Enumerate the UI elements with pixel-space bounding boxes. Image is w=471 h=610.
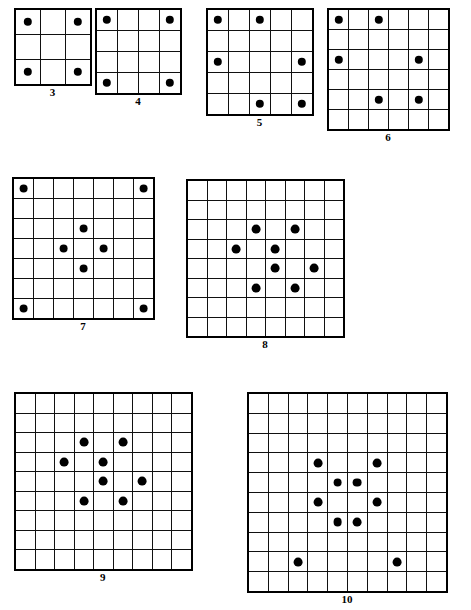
grid-cell[interactable] <box>94 492 114 512</box>
grid-cell[interactable] <box>308 533 328 553</box>
grid-cell[interactable] <box>250 73 271 94</box>
grid-cell[interactable] <box>54 299 74 319</box>
grid-cell[interactable] <box>369 70 389 90</box>
grid-cell[interactable] <box>114 239 134 259</box>
grid-cell[interactable] <box>153 472 173 492</box>
grid-cell[interactable] <box>36 394 56 414</box>
grid-cell[interactable] <box>94 279 114 299</box>
grid-cell[interactable] <box>134 239 154 259</box>
grid-cell[interactable] <box>305 201 325 221</box>
grid-cell[interactable] <box>118 52 139 73</box>
grid-cell[interactable] <box>34 279 54 299</box>
grid-cell[interactable] <box>14 299 34 319</box>
grid-cell[interactable] <box>325 318 345 338</box>
grid-cell[interactable] <box>407 572 427 592</box>
grid-cell[interactable] <box>289 493 309 513</box>
grid-cell[interactable] <box>325 259 345 279</box>
grid-cell[interactable] <box>134 279 154 299</box>
grid-cell[interactable] <box>172 492 192 512</box>
grid-cell[interactable] <box>325 201 345 221</box>
grid-cell[interactable] <box>14 259 34 279</box>
grid-cell[interactable] <box>14 239 34 259</box>
grid-cell[interactable] <box>305 318 325 338</box>
grid-cell[interactable] <box>114 531 134 551</box>
grid-cell[interactable] <box>172 550 192 570</box>
grid-cell[interactable] <box>266 279 286 299</box>
grid-cell[interactable] <box>153 394 173 414</box>
grid-cell[interactable] <box>269 513 289 533</box>
grid-cell[interactable] <box>429 50 449 70</box>
grid-cell[interactable] <box>286 318 306 338</box>
grid-cell[interactable] <box>94 219 114 239</box>
grid-cell[interactable] <box>133 531 153 551</box>
grid-cell[interactable] <box>407 493 427 513</box>
grid-cell[interactable] <box>328 434 348 454</box>
grid-cell[interactable] <box>271 52 292 73</box>
grid-cell[interactable] <box>289 572 309 592</box>
grid-cell[interactable] <box>409 110 429 130</box>
grid-cell[interactable] <box>286 259 306 279</box>
grid-cell[interactable] <box>114 492 134 512</box>
grid-cell[interactable] <box>305 259 325 279</box>
grid-cell[interactable] <box>55 433 75 453</box>
grid-cell[interactable] <box>269 394 289 414</box>
grid-cell[interactable] <box>41 60 66 85</box>
grid-cell[interactable] <box>139 73 160 94</box>
grid-cell[interactable] <box>208 318 228 338</box>
grid-cell[interactable] <box>133 453 153 473</box>
grid-cell[interactable] <box>292 73 313 94</box>
grid-cell[interactable] <box>328 533 348 553</box>
grid-cell[interactable] <box>36 433 56 453</box>
grid-cell[interactable] <box>133 414 153 434</box>
grid-cell[interactable] <box>286 201 306 221</box>
grid-cell[interactable] <box>41 35 66 60</box>
grid-cell[interactable] <box>66 35 91 60</box>
grid-cell[interactable] <box>188 181 208 201</box>
grid-cell[interactable] <box>328 493 348 513</box>
grid-cell[interactable] <box>249 473 269 493</box>
grid-cell[interactable] <box>409 90 429 110</box>
grid-cell[interactable] <box>249 394 269 414</box>
grid-cell[interactable] <box>188 279 208 299</box>
grid-cell[interactable] <box>94 394 114 414</box>
grid-cell[interactable] <box>368 513 388 533</box>
grid-cell[interactable] <box>16 35 41 60</box>
grid-cell[interactable] <box>271 10 292 31</box>
grid-cell[interactable] <box>388 513 408 533</box>
grid-cell[interactable] <box>36 414 56 434</box>
grid-cell[interactable] <box>153 531 173 551</box>
grid-cell[interactable] <box>74 239 94 259</box>
grid-cell[interactable] <box>249 572 269 592</box>
grid-cell[interactable] <box>250 94 271 115</box>
grid-cell[interactable] <box>427 572 447 592</box>
grid-cell[interactable] <box>208 279 228 299</box>
grid-cell[interactable] <box>289 414 309 434</box>
grid-cell[interactable] <box>348 513 368 533</box>
grid-cell[interactable] <box>286 220 306 240</box>
grid-cell[interactable] <box>292 10 313 31</box>
grid-cell[interactable] <box>54 259 74 279</box>
grid-cell[interactable] <box>429 70 449 90</box>
grid-cell[interactable] <box>368 552 388 572</box>
grid-cell[interactable] <box>118 10 139 31</box>
grid-cell[interactable] <box>55 453 75 473</box>
grid-cell[interactable] <box>328 453 348 473</box>
grid-cell[interactable] <box>16 492 36 512</box>
grid-cell[interactable] <box>269 473 289 493</box>
grid-cell[interactable] <box>16 10 41 35</box>
grid-cell[interactable] <box>289 552 309 572</box>
grid-cell[interactable] <box>368 414 388 434</box>
grid-cell[interactable] <box>16 60 41 85</box>
grid-cell[interactable] <box>328 473 348 493</box>
grid-cell[interactable] <box>271 31 292 52</box>
grid-cell[interactable] <box>66 10 91 35</box>
grid-cell[interactable] <box>308 493 328 513</box>
grid-cell[interactable] <box>133 511 153 531</box>
grid-cell[interactable] <box>153 433 173 453</box>
grid-cell[interactable] <box>160 31 181 52</box>
grid-cell[interactable] <box>133 492 153 512</box>
grid-cell[interactable] <box>308 513 328 533</box>
grid-cell[interactable] <box>349 50 369 70</box>
grid-cell[interactable] <box>34 219 54 239</box>
grid-cell[interactable] <box>349 10 369 30</box>
